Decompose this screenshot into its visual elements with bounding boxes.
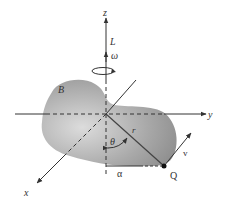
b-label: B — [58, 84, 64, 95]
q-label: Q — [170, 170, 178, 181]
omega-label: ω — [111, 50, 118, 61]
x-label: x — [23, 187, 29, 198]
y-label: y — [207, 109, 213, 120]
point-q — [162, 164, 167, 169]
l-label: L — [109, 36, 116, 47]
rotation-ellipse — [92, 68, 114, 75]
x-axis — [37, 154, 66, 183]
rigid-body-diagram: z L ω B y x r θ v α Q — [0, 0, 230, 205]
theta-label: θ — [110, 136, 115, 147]
v-label: v — [183, 148, 188, 158]
r-label: r — [132, 125, 136, 135]
alpha-label: α — [117, 168, 123, 179]
z-label: z — [102, 7, 107, 18]
